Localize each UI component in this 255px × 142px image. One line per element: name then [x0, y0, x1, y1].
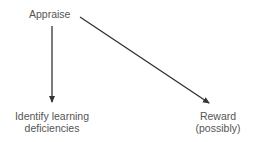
node-identify-learning-deficiencies: Identify learning deficiencies: [4, 110, 100, 134]
node-appraise: Appraise: [29, 8, 70, 20]
node-appraise-label: Appraise: [29, 8, 70, 20]
node-identify-line2: deficiencies: [4, 122, 100, 134]
node-reward-line2: (possibly): [186, 122, 250, 134]
node-reward: Reward (possibly): [186, 110, 250, 134]
arrow-appraise-to-reward: [80, 17, 209, 103]
node-identify-line1: Identify learning: [4, 110, 100, 122]
node-reward-line1: Reward: [186, 110, 250, 122]
